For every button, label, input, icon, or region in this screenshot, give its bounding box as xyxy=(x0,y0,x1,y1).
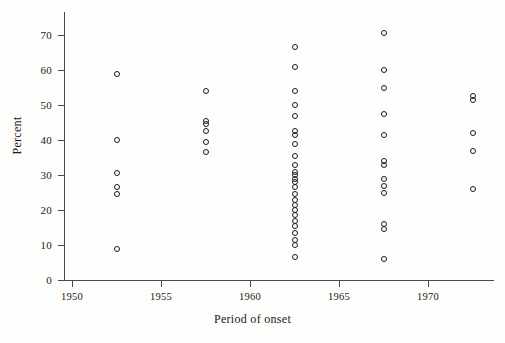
x-axis-tick-label: 1955 xyxy=(131,291,191,302)
y-axis-line xyxy=(64,12,65,281)
data-point xyxy=(203,128,209,134)
y-axis-tick-label: 70 xyxy=(8,30,52,41)
data-point xyxy=(292,162,298,168)
data-point xyxy=(292,141,298,147)
y-axis-tick xyxy=(58,280,64,281)
x-axis-tick-label: 1950 xyxy=(42,291,102,302)
data-point xyxy=(292,230,298,236)
data-point xyxy=(292,44,298,50)
scatter-plot-figure: 010203040506070 19501955196019651970 Per… xyxy=(0,0,505,343)
y-axis-tick-label: 0 xyxy=(8,275,52,286)
y-axis-tick xyxy=(58,35,64,36)
data-point xyxy=(203,149,209,155)
x-axis-title: Period of onset xyxy=(0,312,505,327)
x-axis-tick xyxy=(72,281,73,287)
y-axis-tick xyxy=(58,140,64,141)
data-point xyxy=(381,85,387,91)
y-axis-tick xyxy=(58,245,64,246)
data-point xyxy=(292,242,298,248)
data-point xyxy=(292,102,298,108)
data-point xyxy=(114,191,120,197)
data-point xyxy=(381,190,387,196)
y-axis-tick xyxy=(58,210,64,211)
data-point xyxy=(203,121,209,127)
data-point xyxy=(292,254,298,260)
x-axis-tick-label: 1970 xyxy=(398,291,458,302)
data-point xyxy=(114,246,120,252)
y-axis-title: Percent xyxy=(10,81,25,191)
data-point xyxy=(470,186,476,192)
data-point xyxy=(381,256,387,262)
x-axis-tick xyxy=(250,281,251,287)
x-axis-tick-label: 1965 xyxy=(309,291,369,302)
y-axis-tick xyxy=(58,105,64,106)
data-point xyxy=(381,67,387,73)
data-point xyxy=(292,88,298,94)
data-point xyxy=(381,176,387,182)
data-point xyxy=(114,170,120,176)
data-point xyxy=(292,153,298,159)
data-point xyxy=(381,111,387,117)
data-point xyxy=(292,184,298,190)
y-axis-tick-label: 60 xyxy=(8,65,52,76)
x-axis-tick-label: 1960 xyxy=(220,291,280,302)
y-axis-tick-label: 20 xyxy=(8,205,52,216)
data-point xyxy=(292,113,298,119)
data-point xyxy=(381,132,387,138)
data-point xyxy=(114,184,120,190)
y-axis-tick xyxy=(58,70,64,71)
data-point xyxy=(203,88,209,94)
data-point xyxy=(381,30,387,36)
y-axis-tick xyxy=(58,175,64,176)
data-point xyxy=(470,130,476,136)
data-point xyxy=(292,64,298,70)
x-axis-tick xyxy=(339,281,340,287)
data-point xyxy=(203,139,209,145)
x-axis-tick xyxy=(428,281,429,287)
y-axis-tick-label: 10 xyxy=(8,240,52,251)
data-point xyxy=(470,148,476,154)
data-point xyxy=(381,162,387,168)
data-point xyxy=(114,71,120,77)
data-point xyxy=(292,223,298,229)
data-point xyxy=(292,132,298,138)
x-axis-tick xyxy=(161,281,162,287)
data-point xyxy=(114,137,120,143)
x-axis-line xyxy=(64,280,494,281)
data-point xyxy=(381,226,387,232)
data-point xyxy=(381,183,387,189)
data-point xyxy=(470,97,476,103)
